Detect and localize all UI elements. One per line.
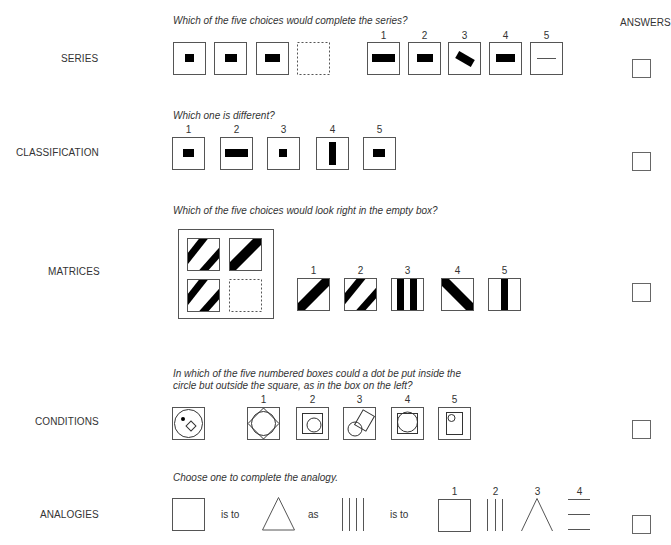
matrices-choice-number-3: 3 (391, 265, 424, 276)
matrix-grid (178, 229, 274, 319)
question-conditions-line-2: circle but outside the square, as in the… (173, 380, 413, 392)
analogies-choice-3 (521, 498, 553, 532)
answer-box-series[interactable] (632, 59, 651, 78)
classification-choice-2 (220, 137, 253, 170)
conditions-choice-number-1: 1 (247, 394, 280, 405)
question-series: Which of the five choices would complete… (173, 15, 408, 27)
section-label-analogies: ANALOGIES (40, 509, 99, 520)
question-matrices: Which of the five choices would look rig… (173, 205, 438, 217)
series-choice-5 (530, 42, 563, 75)
classification-choice-number-3: 3 (267, 124, 300, 135)
conditions-choice-2 (296, 407, 329, 440)
conditions-choice-number-3: 3 (343, 394, 376, 405)
matrices-choice-2 (344, 278, 377, 311)
conditions-choice-1 (247, 407, 280, 440)
classification-choice-3 (267, 137, 300, 170)
classification-choice-5 (363, 137, 396, 170)
matrices-choice-number-1: 1 (297, 265, 330, 276)
question-classification: Which one is different? (173, 110, 275, 122)
classification-choice-4 (316, 137, 349, 170)
classification-choice-number-4: 4 (316, 124, 349, 135)
series-empty-slot (297, 42, 330, 75)
analogies-choice-number-3: 3 (521, 486, 554, 497)
answers-header: ANSWERS (620, 17, 671, 28)
section-label-classification: CLASSIFICATION (16, 147, 99, 158)
conditions-choice-4 (391, 407, 424, 440)
series-choice-number-1: 1 (367, 30, 400, 41)
matrices-choice-4 (441, 278, 474, 311)
matrices-choice-number-5: 5 (488, 265, 521, 276)
conditions-choice-3 (343, 407, 376, 440)
section-label-matrices: MATRICES (48, 266, 100, 277)
analogies-choice-number-2: 2 (479, 486, 512, 497)
answer-box-classification[interactable] (632, 152, 651, 171)
series-choice-3 (448, 42, 481, 75)
analogies-choice-1 (438, 499, 471, 532)
series-choice-number-4: 4 (489, 30, 522, 41)
classification-choice-number-1: 1 (172, 124, 205, 135)
classification-choice-1 (172, 137, 205, 170)
conditions-reference (172, 407, 205, 440)
series-stem-2 (214, 42, 247, 75)
classification-choice-number-2: 2 (220, 124, 253, 135)
series-choice-number-3: 3 (448, 30, 481, 41)
answer-box-analogies[interactable] (632, 515, 651, 534)
conditions-choice-number-4: 4 (391, 394, 424, 405)
analogy-square (172, 498, 205, 531)
analogies-choice-number-4: 4 (563, 486, 596, 497)
matrices-choice-number-2: 2 (344, 265, 377, 276)
conditions-choice-number-5: 5 (438, 394, 471, 405)
question-conditions-line-1: In which of the five numbered boxes coul… (173, 368, 461, 380)
series-choice-2 (408, 42, 441, 75)
series-choice-number-2: 2 (408, 30, 441, 41)
series-choice-4 (489, 42, 522, 75)
classification-choice-number-5: 5 (363, 124, 396, 135)
matrices-choice-5 (488, 278, 521, 311)
matrices-choice-1 (297, 278, 330, 311)
series-choice-1 (367, 42, 400, 75)
analogy-word-is-to-2: is to (390, 509, 408, 520)
analogy-four-lines (340, 498, 366, 531)
conditions-choice-number-2: 2 (296, 394, 329, 405)
analogies-choice-4 (568, 498, 591, 532)
answer-box-matrices[interactable] (632, 283, 651, 302)
matrices-choice-3 (391, 278, 424, 311)
section-label-conditions: CONDITIONS (35, 416, 99, 427)
series-stem-3 (256, 42, 289, 75)
series-stem-1 (173, 42, 206, 75)
matrices-choice-number-4: 4 (441, 265, 474, 276)
series-choice-number-5: 5 (530, 30, 563, 41)
analogies-choice-2 (484, 499, 506, 531)
answer-box-conditions[interactable] (632, 420, 651, 439)
analogy-word-as: as (308, 509, 319, 520)
conditions-choice-5 (438, 407, 471, 440)
question-analogies: Choose one to complete the analogy. (173, 472, 338, 484)
analogies-choice-number-1: 1 (438, 486, 471, 497)
analogy-triangle (262, 497, 296, 531)
analogy-word-is-to-1: is to (221, 509, 239, 520)
section-label-series: SERIES (61, 53, 98, 64)
